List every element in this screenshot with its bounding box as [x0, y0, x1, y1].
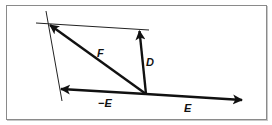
- vector-E-arrow: [146, 94, 242, 100]
- label-E: E: [184, 102, 192, 114]
- label-D: D: [146, 56, 154, 68]
- label-negE: −E: [98, 97, 112, 109]
- vector-F-arrow: [50, 25, 146, 94]
- label-F: F: [97, 47, 104, 59]
- vector-negE-arrow: [61, 89, 146, 94]
- vector-diagram: F D −E E: [0, 0, 272, 125]
